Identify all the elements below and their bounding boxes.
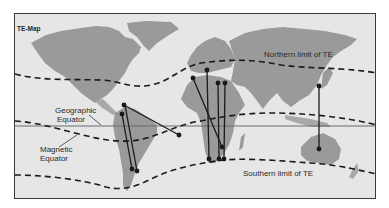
path-endpoint (177, 133, 181, 137)
path-endpoint (216, 81, 220, 85)
te-map: TE-Map Northern limit of TE Southern lim… (14, 13, 376, 199)
southern-limit-label: Southern limit of TE (243, 169, 313, 178)
path-endpoint (120, 112, 124, 116)
magnetic-equator-label-line1: Magnetic (40, 145, 72, 154)
path-endpoint (135, 169, 139, 173)
geographic-equator-label-line2: Equator (57, 115, 85, 124)
northern-limit-label: Northern limit of TE (264, 50, 333, 59)
path-endpoint (191, 76, 195, 80)
geographic-equator-label-line1: Geographic (55, 106, 96, 115)
path-endpoint (217, 157, 221, 161)
magnetic-equator-label-line2: Equator (40, 154, 68, 163)
path-endpoint (130, 167, 134, 171)
path-endpoint (317, 147, 321, 151)
path-endpoint (223, 81, 227, 85)
path-endpoint (317, 84, 321, 88)
map-title: TE-Map (17, 24, 40, 33)
path-endpoint (222, 157, 226, 161)
path-endpoint (207, 157, 211, 161)
path-endpoint (220, 145, 224, 149)
path-endpoint (205, 68, 209, 72)
